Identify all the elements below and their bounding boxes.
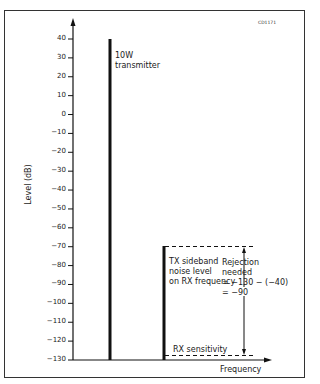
rx-sensitivity-label: RX sensitivity — [173, 345, 227, 355]
y-axis-arrow-icon — [71, 18, 76, 26]
tx-annotation-line: transmitter — [115, 61, 160, 71]
y-tick-label: −100 — [36, 298, 66, 306]
rejection-line: needed — [222, 268, 252, 278]
tx-annotation: 10W transmitter — [115, 51, 160, 71]
y-tick-label: 0 — [36, 110, 66, 118]
y-tick-label: −70 — [36, 242, 66, 250]
rejection-line: Rejection — [222, 258, 259, 268]
rejection-line: = −90 — [222, 288, 248, 298]
y-tick-label: −80 — [36, 261, 66, 269]
y-tick-label: 40 — [36, 34, 66, 42]
y-tick-label: −20 — [36, 147, 66, 155]
y-tick-label: −90 — [36, 279, 66, 287]
y-tick-label: 20 — [36, 72, 66, 80]
y-tick-label: −10 — [36, 128, 66, 136]
x-axis-arrow-icon — [264, 358, 272, 363]
y-axis-label: Level (dB) — [24, 164, 33, 204]
y-tick-label: −60 — [36, 223, 66, 231]
y-tick-label: −120 — [36, 336, 66, 344]
y-tick-label: −50 — [36, 204, 66, 212]
y-tick-label: −30 — [36, 166, 66, 174]
y-tick-label: −130 — [36, 355, 66, 363]
tx-annotation-line: 10W — [115, 51, 160, 61]
rejection-line: = −130 − (−40) — [222, 278, 288, 288]
y-tick-label: −110 — [36, 317, 66, 325]
y-tick-label: 30 — [36, 53, 66, 61]
sideband-bar — [163, 246, 166, 360]
y-tick-label: 10 — [36, 91, 66, 99]
rejection-down-arrow-icon — [242, 349, 246, 355]
y-ticks — [68, 39, 73, 360]
tx-bar — [109, 39, 112, 360]
rejection-up-arrow-icon — [242, 247, 246, 253]
x-axis-label: Frequency — [220, 365, 261, 375]
y-tick-label: −40 — [36, 185, 66, 193]
